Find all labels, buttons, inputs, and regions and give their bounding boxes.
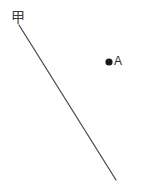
point-a-marker: [105, 58, 112, 65]
line-jia: [19, 25, 116, 180]
line-label-jia: 甲: [11, 10, 25, 24]
point-label-a: A: [114, 55, 122, 67]
geometry-figure-canvas: 甲 A: [0, 0, 142, 191]
figure-drawing-area: [0, 0, 142, 191]
